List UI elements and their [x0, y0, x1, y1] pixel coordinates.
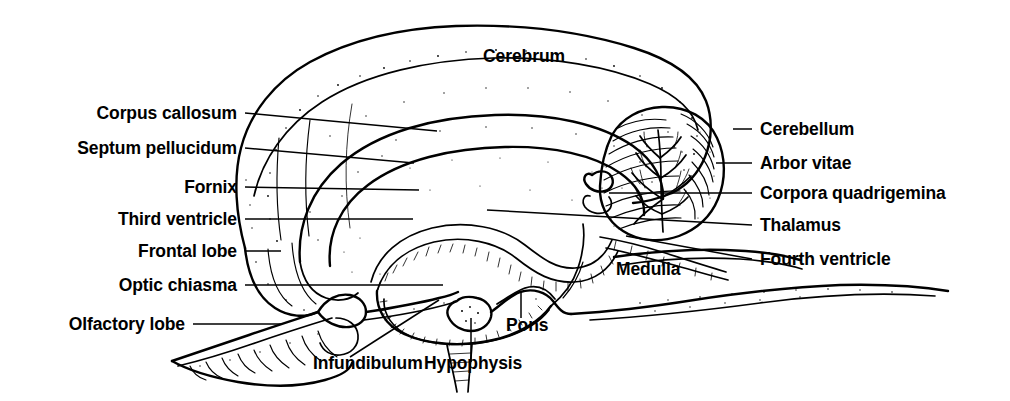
label-frontal-lobe: Frontal lobe — [138, 241, 237, 261]
label-arbor-vitae: Arbor vitae — [760, 153, 852, 173]
label-cerebellum: Cerebellum — [760, 119, 854, 139]
label-fourth-ventricle: Fourth ventricle — [760, 249, 891, 269]
label-infundibulum: Infundibulum — [313, 353, 423, 373]
label-pons: Pons — [506, 315, 549, 335]
label-corpus-callosum: Corpus callosum — [97, 103, 237, 123]
brain-diagram-canvas: Cerebrum Corpus callosum Septum pellucid… — [0, 0, 1010, 401]
label-cerebrum: Cerebrum — [483, 46, 565, 66]
label-thalamus: Thalamus — [760, 215, 841, 235]
label-fornix: Fornix — [184, 177, 237, 197]
label-olfactory-lobe: Olfactory lobe — [69, 314, 186, 334]
label-septum-pellucidum: Septum pellucidum — [77, 138, 237, 158]
label-third-ventricle: Third ventricle — [118, 209, 237, 229]
label-corpora-quadrigemina: Corpora quadrigemina — [760, 183, 946, 203]
label-hypophysis: Hypophysis — [424, 353, 523, 373]
label-medulla: Medulla — [616, 259, 681, 279]
brain-diagram-figure: Cerebrum Corpus callosum Septum pellucid… — [0, 0, 1010, 401]
label-optic-chiasma: Optic chiasma — [119, 275, 238, 295]
